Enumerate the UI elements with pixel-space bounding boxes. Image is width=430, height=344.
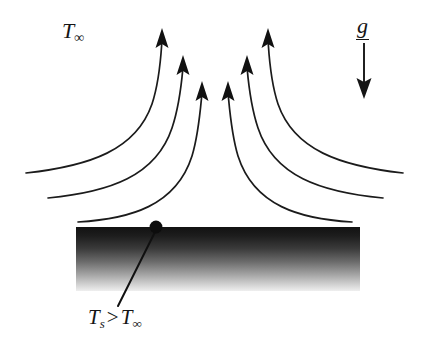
comparison-operator: > — [105, 305, 121, 329]
flow-arrowheads — [156, 28, 275, 101]
streamline-right-outer — [268, 40, 403, 173]
diagram-canvas — [0, 0, 430, 344]
surface-temperature-label: Ts>T∞ — [88, 305, 142, 332]
surface-temperature-subscript: s — [100, 316, 105, 331]
compare-temperature-symbol: T — [121, 305, 133, 329]
gravity-symbol: g — [357, 13, 368, 38]
ambient-temperature-label: T∞ — [62, 18, 84, 46]
surface-point-marker — [150, 221, 163, 234]
surface-temperature-symbol: T — [88, 305, 100, 329]
convection-diagram: T∞ Ts>T∞ g — [0, 0, 430, 344]
gravity-arrow — [357, 43, 372, 99]
heated-plate — [76, 227, 360, 291]
streamline-left-outer — [26, 40, 162, 173]
ambient-temperature-symbol: T — [62, 18, 74, 43]
streamline-left-middle — [48, 67, 183, 198]
gravity-label: g — [356, 14, 369, 40]
compare-temperature-subscript: ∞ — [132, 316, 141, 331]
ambient-temperature-subscript: ∞ — [74, 30, 84, 45]
